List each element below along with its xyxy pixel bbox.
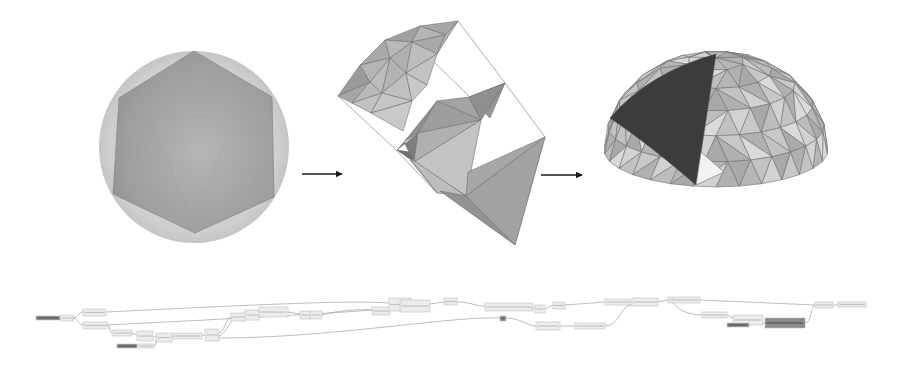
graph-node-label-placeholder bbox=[537, 308, 544, 309]
figure-svg bbox=[0, 0, 907, 367]
graph-node-label-placeholder bbox=[140, 345, 153, 346]
graph-node-label-placeholder bbox=[247, 314, 258, 315]
graph-node-label-placeholder bbox=[840, 304, 865, 305]
graph-node-label-placeholder bbox=[538, 325, 559, 326]
graph-node-label-placeholder bbox=[63, 317, 72, 318]
node-wire bbox=[658, 300, 668, 302]
node-wire bbox=[132, 333, 137, 335]
graph-node-label-placeholder bbox=[374, 310, 389, 311]
icosahedron-figure bbox=[99, 51, 289, 243]
graph-node-label-placeholder bbox=[577, 325, 604, 326]
partial-subdivision-figure bbox=[338, 21, 545, 245]
graph-node-label-placeholder bbox=[729, 324, 748, 325]
graph-node-label-placeholder bbox=[302, 314, 310, 315]
graph-node-label-placeholder bbox=[704, 314, 726, 315]
graph-node-label-placeholder bbox=[207, 334, 218, 335]
graph-node-label-placeholder bbox=[502, 318, 505, 319]
node-wire bbox=[605, 305, 632, 326]
node-wire bbox=[670, 302, 702, 315]
graph-node-label-placeholder bbox=[446, 301, 456, 302]
graph-node-label-placeholder bbox=[767, 322, 804, 323]
graph-node-label-placeholder bbox=[261, 311, 287, 312]
node-wire bbox=[457, 302, 485, 306]
node-wire bbox=[727, 315, 733, 318]
graph-node-label-placeholder bbox=[114, 332, 131, 333]
graph-node-label-placeholder bbox=[85, 312, 105, 313]
node-wire bbox=[73, 318, 83, 325]
node-wire bbox=[805, 305, 815, 323]
graph-node-label-placeholder bbox=[634, 301, 657, 302]
graph-node-label-placeholder bbox=[158, 337, 171, 338]
node-wire bbox=[154, 339, 156, 346]
figure-canvas bbox=[0, 0, 907, 367]
node-wire bbox=[545, 305, 553, 309]
node-wire bbox=[219, 318, 500, 338]
graph-node-label-placeholder bbox=[233, 316, 245, 317]
graph-node-label-placeholder bbox=[735, 319, 762, 320]
node-wire bbox=[700, 300, 815, 305]
node-wire bbox=[107, 325, 112, 333]
graph-node-label-placeholder bbox=[607, 301, 629, 302]
graph-node-label-placeholder bbox=[555, 305, 564, 306]
node-wire bbox=[565, 302, 605, 305]
node-wire bbox=[202, 335, 205, 336]
graph-node-label-placeholder bbox=[670, 299, 699, 300]
node-wire bbox=[73, 312, 83, 318]
graph-node-label-placeholder bbox=[119, 345, 136, 346]
node-graph bbox=[36, 297, 866, 348]
graph-node-label-placeholder bbox=[175, 335, 201, 336]
graph-node-label-placeholder bbox=[817, 304, 832, 305]
graph-node-label-placeholder bbox=[312, 314, 321, 315]
graph-node-label-placeholder bbox=[139, 335, 152, 336]
node-wire bbox=[506, 318, 536, 326]
geodesic-dome-figure bbox=[605, 52, 828, 187]
graph-node-label-placeholder bbox=[487, 306, 532, 307]
node-wire bbox=[153, 336, 156, 337]
graph-node-label-placeholder bbox=[85, 325, 106, 326]
node-wire bbox=[288, 312, 300, 314]
node-wire bbox=[430, 302, 444, 304]
graph-node-label-placeholder bbox=[402, 305, 429, 306]
graph-node-label-placeholder bbox=[38, 317, 59, 318]
